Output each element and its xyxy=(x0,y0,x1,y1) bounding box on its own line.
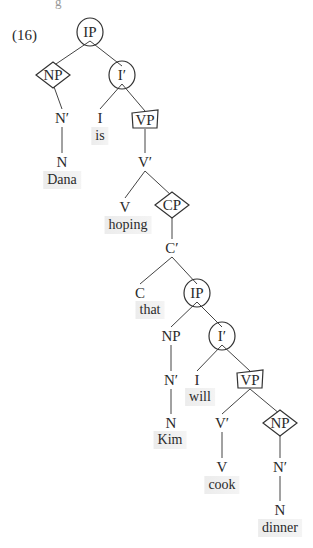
tree-edge xyxy=(171,302,197,327)
tree-edge xyxy=(53,84,62,109)
node-nb1: N′ xyxy=(55,111,69,126)
node-n1: N xyxy=(57,155,68,170)
word-that: that xyxy=(136,301,165,319)
word-hoping: hoping xyxy=(105,216,152,234)
tree-edge xyxy=(250,389,280,414)
node-ib2: I′ xyxy=(218,329,226,344)
node-n3: N xyxy=(275,503,286,518)
node-v2: V xyxy=(217,460,228,475)
word-dinner: dinner xyxy=(258,519,302,537)
tree-edge xyxy=(197,302,222,327)
tree-edge xyxy=(222,389,250,414)
tree-edge xyxy=(125,171,145,198)
node-i1: I xyxy=(98,111,103,126)
node-vp2: VP xyxy=(240,373,259,388)
node-np2: NP xyxy=(161,329,180,344)
node-vb1: V′ xyxy=(138,155,152,170)
node-c1: C xyxy=(135,286,145,301)
node-ib1: I′ xyxy=(118,68,126,83)
node-ip2: IP xyxy=(190,286,203,301)
node-np3: NP xyxy=(270,416,289,431)
word-cook: cook xyxy=(204,476,239,494)
node-v1: V xyxy=(120,200,131,215)
node-nb2: N′ xyxy=(164,373,178,388)
node-cp1: CP xyxy=(163,198,181,213)
tree-edge xyxy=(145,171,172,196)
node-nb3: N′ xyxy=(273,460,287,475)
node-vp1: VP xyxy=(135,113,154,128)
node-n2: N xyxy=(166,416,177,431)
tree-edge xyxy=(100,84,122,109)
word-Dana: Dana xyxy=(43,171,81,189)
word-will: will xyxy=(185,388,215,406)
node-cb1: C′ xyxy=(165,241,178,256)
node-vb2: V′ xyxy=(215,416,229,431)
node-np1: NP xyxy=(43,68,62,83)
word-Kim: Kim xyxy=(154,431,187,449)
node-i2: I xyxy=(195,373,200,388)
node-ip1: IP xyxy=(83,25,96,40)
tree-edge xyxy=(140,257,172,284)
word-is: is xyxy=(91,127,108,145)
